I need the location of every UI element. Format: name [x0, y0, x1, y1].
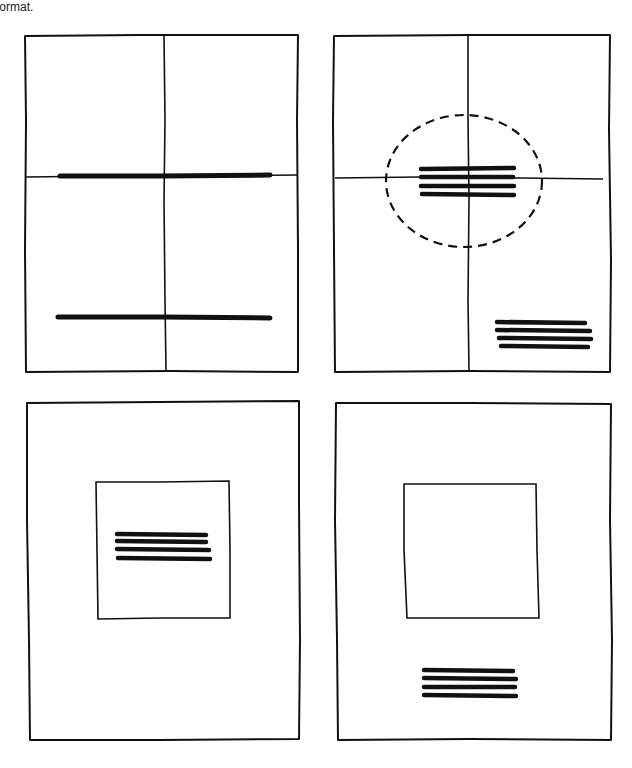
layout-diagram	[0, 0, 632, 768]
page-frame	[335, 403, 612, 740]
text-block-below-box	[424, 670, 516, 696]
panel-2-optical-center	[333, 35, 611, 372]
panel-4-text-below-box	[335, 403, 612, 740]
page-frame	[25, 35, 298, 372]
panel-1-quartered-page-with-rules	[25, 35, 298, 372]
rule-on-center-line	[60, 175, 270, 176]
vertical-center-guide	[468, 36, 469, 371]
empty-inner-box	[404, 484, 539, 618]
optical-center-dashed-circle	[386, 115, 542, 247]
panel-3-text-inside-box	[27, 401, 300, 740]
text-block-lower-right	[497, 322, 591, 347]
text-block-in-box	[117, 534, 210, 559]
page-frame	[27, 401, 300, 740]
rule-near-bottom	[58, 317, 270, 318]
text-block-center	[421, 168, 514, 195]
vertical-center-guide	[164, 36, 166, 371]
